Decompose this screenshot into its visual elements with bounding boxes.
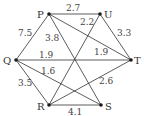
node-label-q: Q <box>3 55 11 66</box>
edges-group <box>16 14 131 105</box>
node-label-u: U <box>104 9 112 20</box>
edge-weight-label: 3.5 <box>18 78 33 88</box>
weighted-graph-diagram: 2.77.53.81.92.23.31.91.63.52.64.1 PUQTRS <box>0 0 144 116</box>
edge-weight-label: 1.9 <box>94 47 109 57</box>
node-label-t: T <box>134 55 141 66</box>
node-r <box>47 103 51 107</box>
node-label-s: S <box>105 101 112 112</box>
edge-weight-label: 4.1 <box>68 107 82 116</box>
edge-weight-label: 7.5 <box>18 28 33 38</box>
edge-weight-label: 3.3 <box>117 28 132 38</box>
node-label-p: P <box>37 9 44 20</box>
nodes-group <box>14 12 133 107</box>
node-p <box>47 12 51 16</box>
edge-weight-label: 3.8 <box>45 33 60 43</box>
node-s <box>99 103 103 107</box>
edge-weight-label: 2.2 <box>80 17 94 27</box>
node-t <box>129 58 133 62</box>
edge-weight-label: 1.6 <box>41 66 56 76</box>
node-labels-group: PUQTRS <box>3 9 141 112</box>
node-label-r: R <box>37 101 45 112</box>
edge-weight-label: 2.6 <box>99 76 114 86</box>
edge-weight-label: 1.9 <box>39 50 54 60</box>
node-q <box>14 58 18 62</box>
edge-weight-label: 2.7 <box>66 3 81 13</box>
node-u <box>98 12 102 16</box>
